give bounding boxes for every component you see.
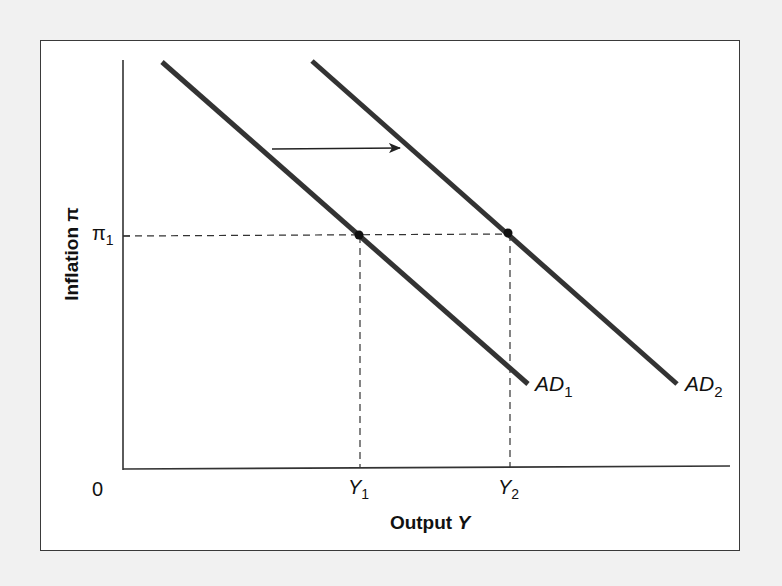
ad1-main: AD (535, 372, 564, 395)
ad2-label: AD2 (685, 372, 723, 400)
chart-plot-area (0, 0, 782, 586)
y2-main: Y (498, 476, 511, 498)
pi1-sub: 1 (106, 232, 114, 248)
y2-sub: 2 (511, 486, 519, 502)
pi1-label: π1 (92, 222, 114, 248)
point-ad1-pi1 (355, 231, 364, 240)
ad1-sub: 1 (564, 383, 572, 400)
x-axis-label: Output Y (390, 512, 470, 534)
x-axis-label-var: Y (457, 512, 470, 533)
ad1-curve (162, 62, 528, 384)
ad1-label: AD1 (535, 372, 573, 400)
y1-main: Y (348, 476, 361, 498)
pi1-main: π (92, 222, 106, 244)
x-axis-label-text: Output (390, 512, 458, 533)
y1-label: Y1 (348, 476, 369, 502)
ad2-curve (312, 61, 677, 384)
x-axis (123, 466, 730, 469)
shift-arrow (272, 148, 400, 149)
y-axis-label: Inflation π (61, 207, 83, 301)
ad2-sub: 2 (714, 383, 722, 400)
origin-label: 0 (92, 478, 103, 501)
pi1-dashed-line (123, 234, 508, 236)
point-ad2-pi1 (504, 229, 513, 238)
y1-sub: 1 (361, 486, 369, 502)
y2-label: Y2 (498, 476, 519, 502)
ad2-main: AD (685, 372, 714, 395)
